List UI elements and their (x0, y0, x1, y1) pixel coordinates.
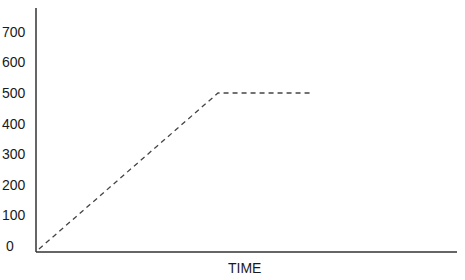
x-axis-label: TIME (228, 260, 261, 276)
plot-area (0, 0, 465, 280)
data-line (39, 93, 312, 249)
